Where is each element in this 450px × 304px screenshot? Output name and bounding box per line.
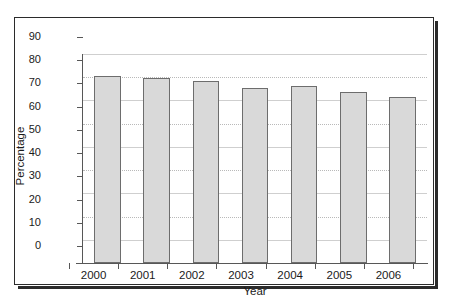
y-tick-label-90: 90 bbox=[1, 31, 41, 42]
y-tick-label-0: 0 bbox=[1, 240, 41, 251]
bar-2006[interactable] bbox=[389, 97, 416, 263]
y-tick-mark-90 bbox=[77, 37, 83, 38]
x-tick-mark-5 bbox=[315, 263, 316, 269]
y-tick-label-80: 80 bbox=[1, 54, 41, 65]
x-tick-mark-4 bbox=[266, 263, 267, 269]
x-tick-mark-0 bbox=[69, 263, 70, 269]
bar-2001[interactable] bbox=[143, 78, 170, 263]
bar-2004[interactable] bbox=[291, 86, 318, 263]
x-axis-title: Year bbox=[83, 286, 427, 298]
gridline-80 bbox=[83, 77, 427, 78]
bar-2003[interactable] bbox=[242, 88, 269, 263]
bar-2002[interactable] bbox=[193, 81, 220, 263]
plot-area bbox=[83, 54, 427, 263]
y-tick-label-60: 60 bbox=[1, 101, 41, 112]
x-tick-mark-6 bbox=[364, 263, 365, 269]
y-tick-label-10: 10 bbox=[1, 217, 41, 228]
bar-2005[interactable] bbox=[340, 92, 367, 263]
x-tick-label-2006: 2006 bbox=[358, 270, 418, 282]
bar-2000[interactable] bbox=[94, 76, 121, 263]
x-tick-mark-7 bbox=[413, 263, 414, 269]
x-tick-mark-3 bbox=[216, 263, 217, 269]
x-tick-mark-2 bbox=[167, 263, 168, 269]
x-tick-mark-1 bbox=[118, 263, 119, 269]
y-tick-label-70: 70 bbox=[1, 77, 41, 88]
figure-shadow-right bbox=[435, 21, 438, 287]
chart-figure-frame: 0102030405060708090 20002001200220032004… bbox=[14, 17, 434, 285]
y-axis-title: Percentage bbox=[15, 116, 27, 196]
gridline-90 bbox=[83, 54, 427, 55]
x-axis-line bbox=[76, 263, 428, 264]
